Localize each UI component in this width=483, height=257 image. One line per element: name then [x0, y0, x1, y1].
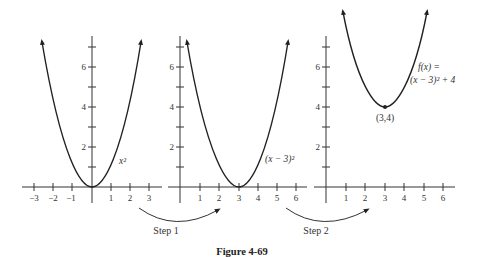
x-tick-label: 3: [147, 193, 152, 203]
y-tick-label: 4: [316, 102, 321, 112]
step-1-label: Step 1: [153, 225, 178, 236]
x-tick-label: 2: [363, 193, 368, 203]
x-tick-label: −3: [29, 193, 39, 203]
y-tick-label: 4: [82, 102, 87, 112]
step-2: Step 2: [286, 208, 367, 236]
x-tick-label: 1: [344, 193, 349, 203]
step-2-arrow: [286, 208, 367, 222]
parabola-curve: [92, 42, 141, 187]
parabola-curve: [187, 42, 239, 187]
y-tick-label: 6: [316, 62, 321, 72]
y-tick-label: 4: [170, 102, 175, 112]
curve-label: (x − 3)²: [265, 154, 294, 165]
x-tick-label: 6: [294, 193, 299, 203]
y-tick-label: 2: [82, 142, 87, 152]
vertex-label: (3,4): [376, 113, 394, 124]
graph-3: 1 2 3 4 5 6 2 4 6 (3,4) f(x) = (x − 3)² …: [314, 12, 455, 203]
curve-label: x²: [118, 156, 126, 166]
curve-label-line2: (x − 3)² + 4: [410, 75, 455, 86]
x-tick-label: 1: [109, 193, 114, 203]
x-tick-label: −1: [66, 193, 76, 203]
figure-caption: Figure 4-69: [216, 246, 267, 257]
x-tick-label: 5: [422, 193, 427, 203]
x-tick-label: 4: [402, 193, 407, 203]
x-tick-label: 3: [383, 193, 388, 203]
x-tick-label: 6: [441, 193, 446, 203]
x-tick-label: 2: [128, 193, 133, 203]
y-tick-label: 6: [170, 62, 175, 72]
x-tick-label: 5: [275, 193, 280, 203]
x-tick-label: 4: [256, 193, 261, 203]
step-2-label: Step 2: [303, 225, 328, 236]
x-tick-label: 2: [217, 193, 222, 203]
curve-label-line1: f(x) =: [418, 62, 440, 73]
vertex-point: [383, 105, 387, 109]
y-tick-label: 2: [170, 142, 175, 152]
x-tick-label: 1: [198, 193, 203, 203]
parabola-curve: [385, 12, 427, 107]
graph-1: −3 −2 −1 1 2 3 2 4 6 x²: [22, 36, 162, 203]
graph-2: 1 2 3 4 5 6 2 4 6 (x − 3)²: [168, 36, 307, 203]
step-1: Step 1: [139, 208, 218, 236]
parabola-curve: [239, 42, 288, 187]
x-tick-label: 3: [237, 193, 242, 203]
step-1-arrow: [139, 208, 218, 222]
y-tick-label: 2: [316, 142, 321, 152]
y-tick-label: 6: [82, 62, 87, 72]
parabola-curve: [343, 12, 385, 107]
figure-canvas: −3 −2 −1 1 2 3 2 4 6 x²: [0, 0, 483, 257]
x-tick-label: −2: [48, 193, 58, 203]
